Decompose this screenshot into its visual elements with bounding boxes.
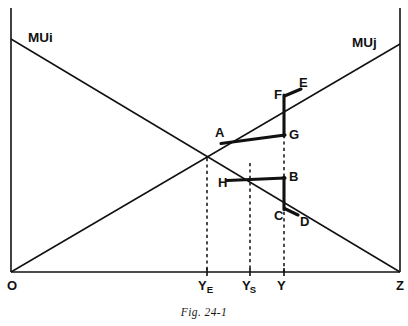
curve-label-mui: MUi	[28, 31, 53, 45]
axis-label-origin: O	[7, 279, 17, 292]
point-label-c: C	[274, 209, 283, 222]
tick-label-y-main: Y	[277, 278, 286, 293]
segment-fe	[285, 89, 302, 96]
tick-label-ye-sub: E	[207, 284, 213, 295]
point-label-h: H	[218, 176, 227, 189]
segment-hb	[227, 178, 285, 181]
point-label-g: G	[289, 128, 299, 141]
figure-caption: Fig. 24-1	[0, 306, 408, 318]
figure-container: MUi MUj A G B H F E C D O Z YE YS Y Fig.…	[0, 0, 408, 326]
tick-label-ys-sub: S	[250, 284, 256, 295]
point-label-b: B	[289, 170, 298, 183]
axis-label-z: Z	[396, 279, 404, 292]
point-label-f: F	[274, 88, 282, 101]
segment-ag	[221, 135, 285, 144]
tick-label-ye: YE	[198, 279, 213, 292]
point-label-a: A	[215, 126, 224, 139]
tick-label-ys: YS	[242, 279, 257, 292]
point-label-d: D	[300, 215, 309, 228]
point-label-e: E	[299, 76, 308, 89]
tick-label-y: Y	[277, 279, 286, 292]
tick-label-ye-main: Y	[198, 278, 207, 293]
curve-label-muj: MUj	[352, 36, 377, 50]
